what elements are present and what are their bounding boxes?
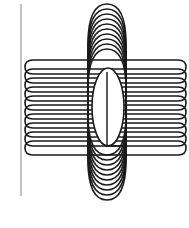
coil-diagram bbox=[0, 0, 189, 228]
center-ellipse bbox=[92, 68, 124, 146]
